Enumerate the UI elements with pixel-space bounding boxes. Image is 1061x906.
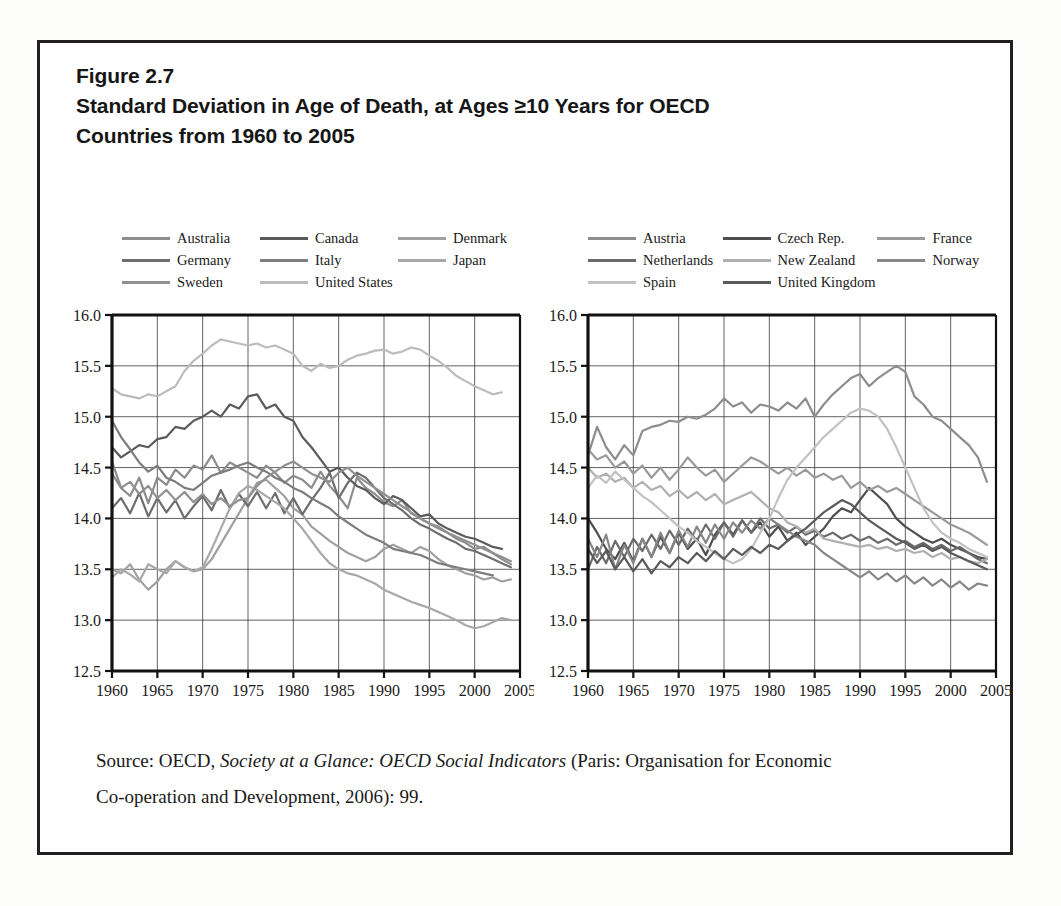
legend-item: Norway (877, 251, 1010, 269)
legend-item: Italy (260, 251, 396, 269)
legend-label: Denmark (453, 229, 507, 247)
x-tick-label: 2000 (459, 682, 491, 699)
legend-label: Austria (643, 229, 686, 247)
x-tick-label: 1985 (799, 682, 831, 699)
legend-right: AustriaCzech Rep.FranceNetherlandsNew Ze… (540, 229, 1010, 303)
series-line-united-kingdom (588, 500, 987, 573)
chart-panel-left: AustraliaCanadaDenmarkGermanyItalyJapanS… (64, 229, 534, 729)
x-tick-label: 1965 (617, 682, 649, 699)
x-tick-label: 1960 (572, 682, 604, 699)
legend-item: Australia (122, 229, 258, 247)
series-line-netherlands (588, 518, 987, 569)
series-line-austria (588, 366, 987, 482)
legend-item: France (877, 229, 1010, 247)
legend-swatch-icon (588, 259, 636, 262)
line-chart-right: 12.513.013.514.014.515.015.516.019601965… (540, 307, 1010, 707)
legend-swatch-icon (260, 237, 308, 240)
x-tick-label: 1970 (187, 682, 219, 699)
page-title: Figure 2.7 Standard Deviation in Age of … (76, 61, 856, 151)
y-tick-label: 14.0 (73, 510, 101, 527)
x-tick-label: 2000 (935, 682, 967, 699)
legend-label: Italy (315, 251, 342, 269)
x-tick-label: 2005 (980, 682, 1010, 699)
source-prefix: Source: OECD, (96, 750, 220, 771)
x-tick-label: 1990 (844, 682, 876, 699)
line-chart-left: 12.513.013.514.014.515.015.516.019601965… (64, 307, 534, 707)
legend-label: Canada (315, 229, 358, 247)
legend-swatch-icon (877, 259, 925, 262)
x-tick-label: 1990 (368, 682, 400, 699)
legend-label: United Kingdom (778, 273, 876, 291)
x-tick-label: 1975 (708, 682, 740, 699)
x-tick-label: 1985 (323, 682, 355, 699)
legend-item: Sweden (122, 273, 258, 291)
y-tick-label: 15.5 (549, 358, 577, 375)
y-tick-label: 13.5 (73, 561, 101, 578)
legend-item: Czech Rep. (723, 229, 876, 247)
source-line2: Co-operation and Development, 2006): 99. (96, 786, 423, 807)
x-tick-label: 1975 (232, 682, 264, 699)
legend-swatch-icon (588, 281, 636, 284)
y-tick-label: 14.5 (549, 460, 577, 477)
legend-swatch-icon (398, 259, 446, 262)
figure-frame: Figure 2.7 Standard Deviation in Age of … (37, 40, 1013, 855)
legend-swatch-icon (723, 281, 771, 284)
y-tick-label: 14.5 (73, 460, 101, 477)
x-tick-label: 1995 (889, 682, 921, 699)
figure-title-line2: Countries from 1960 to 2005 (76, 121, 856, 151)
x-tick-label: 1995 (413, 682, 445, 699)
legend-item: United States (260, 273, 396, 291)
y-tick-label: 13.0 (73, 612, 101, 629)
legend-swatch-icon (260, 259, 308, 262)
y-tick-label: 13.5 (549, 561, 577, 578)
y-tick-label: 16.0 (73, 307, 101, 324)
y-tick-label: 16.0 (549, 307, 577, 324)
legend-item: Germany (122, 251, 258, 269)
legend-label: Spain (643, 273, 676, 291)
legend-label: Japan (453, 251, 486, 269)
plot-right: 12.513.013.514.014.515.015.516.019601965… (540, 307, 1010, 707)
figure-title-line1: Standard Deviation in Age of Death, at A… (76, 91, 856, 121)
legend-item: United Kingdom (723, 273, 876, 291)
legend-swatch-icon (260, 281, 308, 284)
legend-label: United States (315, 273, 393, 291)
legend-item: Denmark (398, 229, 534, 247)
x-tick-label: 1965 (141, 682, 173, 699)
x-tick-label: 1980 (753, 682, 785, 699)
x-tick-label: 1960 (96, 682, 128, 699)
y-tick-label: 15.0 (73, 409, 101, 426)
legend-label: Norway (932, 251, 979, 269)
x-tick-label: 1970 (663, 682, 695, 699)
charts-container: AustraliaCanadaDenmarkGermanyItalyJapanS… (40, 229, 1010, 739)
legend-item: Japan (398, 251, 534, 269)
series-line-australia (112, 455, 511, 564)
legend-item: Canada (260, 229, 396, 247)
y-tick-label: 12.5 (549, 663, 577, 680)
legend-label: New Zealand (778, 251, 856, 269)
series-line-italy (112, 421, 493, 576)
legend-swatch-icon (588, 237, 636, 240)
figure-number: Figure 2.7 (76, 61, 856, 91)
legend-swatch-icon (122, 281, 170, 284)
legend-swatch-icon (877, 237, 925, 240)
x-tick-label: 2005 (504, 682, 534, 699)
legend-label: Netherlands (643, 251, 713, 269)
y-tick-label: 14.0 (549, 510, 577, 527)
legend-label: France (932, 229, 971, 247)
legend-label: Australia (177, 229, 230, 247)
source-title: Society at a Glance: OECD Social Indicat… (220, 750, 566, 771)
series-line-united-states (112, 339, 502, 398)
legend-swatch-icon (723, 259, 771, 262)
plot-left: 12.513.013.514.014.515.015.516.019601965… (64, 307, 534, 707)
legend-item: Spain (588, 273, 721, 291)
chart-panel-right: AustriaCzech Rep.FranceNetherlandsNew Ze… (540, 229, 1010, 729)
legend-label: Germany (177, 251, 231, 269)
series-line-japan (112, 486, 511, 628)
y-tick-label: 15.5 (73, 358, 101, 375)
legend-label: Sweden (177, 273, 223, 291)
legend-item: Austria (588, 229, 721, 247)
x-tick-label: 1980 (277, 682, 309, 699)
y-tick-label: 13.0 (549, 612, 577, 629)
figure-page: Figure 2.7 Standard Deviation in Age of … (0, 0, 1061, 906)
source-suffix: (Paris: Organisation for Economic (566, 750, 832, 771)
